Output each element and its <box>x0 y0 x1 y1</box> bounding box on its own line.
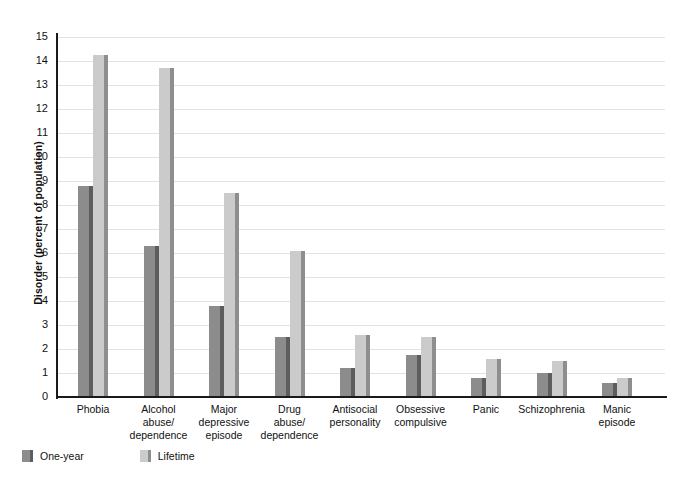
y-axis-line <box>56 33 58 399</box>
bar-one-year <box>275 337 290 397</box>
legend-label-one-year: One-year <box>40 450 84 462</box>
bar-one-year <box>471 378 486 397</box>
y-axis-tick-label: 15 <box>8 31 48 42</box>
x-axis-line <box>56 396 667 398</box>
y-axis-tick-label: 0 <box>8 391 48 402</box>
bar-lifetime <box>290 251 305 397</box>
bar-one-year <box>537 373 552 397</box>
bar-one-year <box>144 246 159 397</box>
gridline <box>56 109 665 110</box>
bar-lifetime <box>421 337 436 397</box>
gridline <box>56 85 665 86</box>
y-axis-tick-label: 5 <box>8 271 48 282</box>
bar-lifetime <box>486 359 501 397</box>
gridline <box>56 229 665 230</box>
legend-swatch-one-year-icon <box>22 450 33 462</box>
gridline <box>56 61 665 62</box>
gridline <box>56 181 665 182</box>
y-axis-tick-label: 7 <box>8 223 48 234</box>
gridline <box>56 37 665 38</box>
y-axis-tick-label: 8 <box>8 199 48 210</box>
bar-lifetime <box>159 68 174 397</box>
bar-lifetime <box>552 361 567 397</box>
y-axis-tick-label: 3 <box>8 319 48 330</box>
legend-swatch-lifetime-icon <box>140 450 151 462</box>
gridline <box>56 157 665 158</box>
bar-lifetime <box>93 55 108 397</box>
y-axis-tick-label: 14 <box>8 55 48 66</box>
bar-chart: Disorder (percent of population) 0123456… <box>0 0 676 480</box>
bar-one-year <box>602 383 617 397</box>
bar-lifetime <box>224 193 239 397</box>
y-axis-tick-label: 4 <box>8 295 48 306</box>
legend-item-one-year[interactable]: One-year <box>22 450 84 462</box>
bar-lifetime <box>355 335 370 397</box>
bar-lifetime <box>617 378 632 397</box>
y-axis-tick-label: 9 <box>8 175 48 186</box>
bar-one-year <box>209 306 224 397</box>
gridline <box>56 205 665 206</box>
legend-item-lifetime[interactable]: Lifetime <box>140 450 195 462</box>
bar-one-year <box>78 186 93 397</box>
y-axis-tick-label: 11 <box>8 127 48 138</box>
legend: One-year Lifetime <box>22 450 195 462</box>
legend-label-lifetime: Lifetime <box>158 450 195 462</box>
bar-one-year <box>340 368 355 397</box>
y-axis-tick-label: 13 <box>8 79 48 90</box>
y-axis-tick-label: 6 <box>8 247 48 258</box>
gridline <box>56 133 665 134</box>
y-axis-tick-label: 10 <box>8 151 48 162</box>
y-axis-tick-label: 1 <box>8 367 48 378</box>
bar-one-year <box>406 355 421 397</box>
y-axis-tick-label: 12 <box>8 103 48 114</box>
x-axis-category-label: Manicepisode <box>572 403 662 429</box>
y-axis-tick-label: 2 <box>8 343 48 354</box>
plot-area <box>56 37 665 397</box>
